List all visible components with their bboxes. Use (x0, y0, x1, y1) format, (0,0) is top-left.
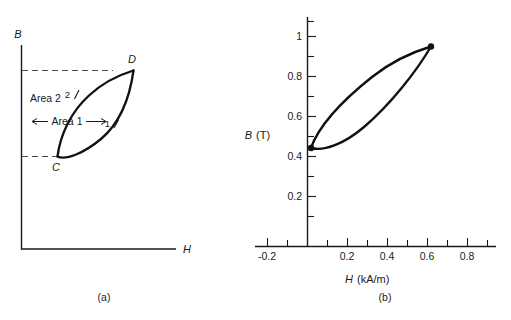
figure-svg: B H C D 1 2 Area 2 Area 1 (a) (0, 0, 511, 320)
panel-a-caption: (a) (98, 291, 111, 303)
panel-b-xtick-label-1: 0.2 (340, 250, 355, 262)
panel-a-tick-state-2 (75, 90, 80, 99)
panel-a-label-point-d: D (128, 53, 136, 65)
panel-b-caption: (b) (379, 291, 392, 303)
panel-b-x-axis-label: H (345, 273, 353, 285)
panel-b-xtick-label-4: 0.8 (460, 250, 475, 262)
panel-b-marker-upper-tip (428, 43, 434, 49)
panel-b-y-axis-label: B (245, 129, 252, 141)
panel-b-x-axis-units: (kA/m) (357, 273, 389, 285)
panel-b-xtick-label-0: -0.2 (258, 250, 276, 262)
panel-b-ytick-label-2: 0.6 (287, 110, 302, 122)
panel-a-x-axis-label: H (183, 243, 191, 255)
figure-container: B H C D 1 2 Area 2 Area 1 (a) (0, 0, 511, 320)
panel-a-y-axis-label: B (14, 28, 21, 40)
panel-b-y-axis-units: (T) (256, 129, 270, 141)
panel-a-label-state-2: 2 (65, 89, 70, 100)
panel-b-xtick-label-3: 0.6 (420, 250, 435, 262)
panel-b: -0.2 0.2 0.4 0.6 0.8 1 0.8 0.6 0.4 0.2 (245, 17, 496, 303)
panel-b-y-minor-ticks (308, 22, 314, 217)
panel-b-ytick-label-1: 0.4 (287, 150, 302, 162)
panel-a-label-area-2: Area 2 (30, 92, 61, 104)
panel-b-ytick-label-0: 0.2 (287, 190, 302, 202)
panel-b-loop-upper-branch (311, 47, 431, 149)
panel-b-marker-lower-tip (308, 145, 314, 151)
panel-b-loop-lower-branch (311, 47, 431, 149)
panel-a: B H C D 1 2 Area 2 Area 1 (a) (14, 28, 191, 303)
panel-a-label-state-1: 1 (105, 118, 110, 129)
panel-b-xtick-label-2: 0.4 (380, 250, 395, 262)
panel-b-ytick-label-3: 0.8 (287, 70, 302, 82)
panel-b-ytick-label-4: 1 (296, 30, 302, 42)
panel-b-x-axis-title: H (kA/m) (345, 273, 389, 285)
panel-b-y-major-ticks (308, 37, 316, 197)
panel-b-y-axis-title: B (T) (245, 129, 270, 141)
panel-a-label-area-1: Area 1 (52, 115, 83, 127)
panel-a-label-point-c: C (52, 161, 60, 173)
